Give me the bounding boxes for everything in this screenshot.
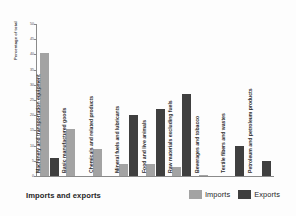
y-tick-mark bbox=[34, 24, 36, 25]
legend-item[interactable]: Exports bbox=[238, 190, 280, 199]
category-label: Machinery and transportation equipment bbox=[35, 74, 41, 173]
bar-imports bbox=[40, 53, 49, 176]
category-label: Food and live animals bbox=[141, 120, 147, 173]
legend: ImportsExports bbox=[189, 190, 280, 199]
category-label: Beverages and tobacco bbox=[194, 116, 200, 173]
y-tick-label: 5 bbox=[22, 159, 34, 163]
bar-exports bbox=[235, 146, 244, 176]
y-tick-mark bbox=[34, 176, 36, 177]
y-tick-label: 45 bbox=[22, 37, 34, 41]
legend-label: Exports bbox=[254, 190, 280, 199]
bar-chart-figure: 05101520253035404550 Machinery and trans… bbox=[0, 0, 296, 216]
bar-imports bbox=[172, 167, 181, 176]
bar-exports bbox=[262, 161, 271, 176]
bar-imports bbox=[93, 149, 102, 176]
bar-imports bbox=[119, 164, 128, 176]
y-tick-label: 0 bbox=[22, 174, 34, 178]
legend-swatch-exports bbox=[238, 190, 251, 199]
legend-item[interactable]: Imports bbox=[189, 190, 230, 199]
bar-imports bbox=[199, 175, 208, 176]
plot-area: 05101520253035404550 Machinery and trans… bbox=[36, 24, 274, 176]
category-label: Textile fibers and wastes bbox=[220, 113, 226, 173]
bar-imports bbox=[66, 129, 75, 176]
category-label: Mineral fuels and lubricants bbox=[114, 106, 120, 173]
bar-exports bbox=[50, 158, 59, 176]
y-tick-label: 20 bbox=[22, 113, 34, 117]
bar-exports bbox=[156, 109, 165, 176]
category-label: Chemicals and related products bbox=[88, 96, 94, 173]
bar-exports bbox=[129, 115, 138, 176]
chart-title: Imports and exports bbox=[26, 191, 101, 200]
y-axis-title: Percentage of total bbox=[13, 21, 18, 60]
y-tick-label: 50 bbox=[22, 22, 34, 26]
y-tick-label: 25 bbox=[22, 98, 34, 102]
y-tick-mark bbox=[34, 70, 36, 71]
y-tick-mark bbox=[34, 54, 36, 55]
y-tick-mark bbox=[34, 39, 36, 40]
category-label: Petroleum and petroleum products bbox=[247, 88, 253, 173]
y-tick-label: 10 bbox=[22, 144, 34, 148]
bar-exports bbox=[182, 94, 191, 176]
y-tick-label: 15 bbox=[22, 128, 34, 132]
category-label: Basic manufactured goods bbox=[61, 108, 67, 173]
x-axis-line bbox=[36, 176, 274, 177]
y-tick-label: 30 bbox=[22, 83, 34, 87]
y-tick-label: 35 bbox=[22, 68, 34, 72]
legend-label: Imports bbox=[205, 190, 230, 199]
bar-group: Petroleum and petroleum products bbox=[252, 24, 278, 176]
legend-swatch-imports bbox=[189, 190, 202, 199]
chart-footer: Imports and exports ImportsExports bbox=[0, 182, 296, 216]
bar-imports bbox=[146, 164, 155, 176]
category-label: Raw materials excluding fuels bbox=[167, 100, 173, 173]
y-tick-label: 40 bbox=[22, 52, 34, 56]
